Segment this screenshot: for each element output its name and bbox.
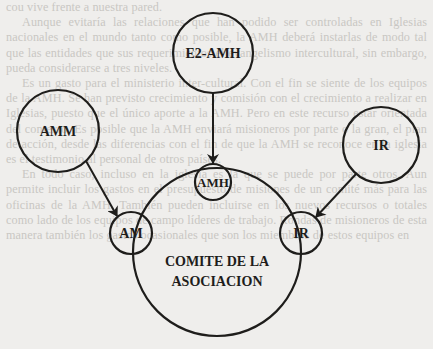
node-amm-label: AMM bbox=[40, 124, 77, 139]
node-amh-label: AMH bbox=[197, 175, 229, 190]
node-am-label: AM bbox=[119, 226, 142, 241]
arrow-amm-to-am bbox=[86, 161, 117, 216]
node-am: AM bbox=[110, 212, 152, 254]
node-amm: AMM bbox=[17, 90, 99, 172]
node-e2-amh: E2-AMH bbox=[173, 13, 253, 93]
node-comite: COMITE DE LA ASOCIACION bbox=[133, 168, 301, 336]
node-ir-outer: IR bbox=[343, 107, 419, 183]
organization-diagram: COMITE DE LA ASOCIACION E2-AMH AMM IR AM… bbox=[0, 0, 433, 349]
node-comite-label-line1: COMITE DE LA bbox=[165, 254, 270, 269]
node-amh: AMH bbox=[195, 164, 231, 200]
node-ir-inner-label: IR bbox=[293, 226, 309, 241]
arrow-ir-to-ir bbox=[316, 174, 356, 217]
scanned-page: cou vive frente a nuestra pared. Aunque … bbox=[0, 0, 433, 349]
node-comite-label-line2: ASOCIACION bbox=[171, 274, 262, 289]
node-ir-outer-label: IR bbox=[373, 138, 389, 153]
node-e2-amh-label: E2-AMH bbox=[185, 46, 240, 61]
